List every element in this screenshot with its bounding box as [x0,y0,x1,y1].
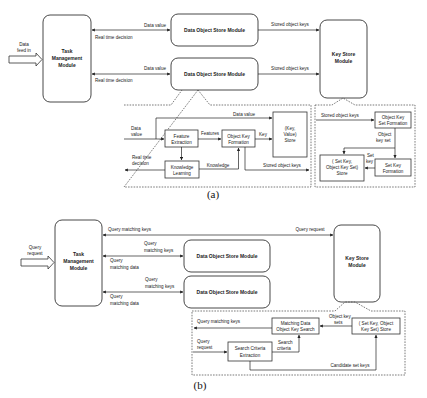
sks-label-3: Store [337,171,348,176]
okf-label-2: Formation [228,140,249,145]
dosm-b1-label: Data Object Store Module [197,253,258,259]
edge-data-value-2: Data value [144,66,166,71]
task-management-b-label-3: Module [70,265,88,271]
caption-a: (a) [207,188,220,201]
edge-real-time-decision-1: Real time decision [95,35,133,40]
knowledge-learning-label-2: Learning [173,171,191,176]
dos-data-value-in-2: value [131,132,142,137]
data-feed-label-1: Data [19,42,29,47]
feature-extraction-label-2: Extraction [171,140,192,145]
ks-query-request-1: Query [197,339,210,344]
edge-query-request-top: Query request [295,227,325,232]
ks-query-matching-keys: Query matching keys [197,319,241,324]
edge-stored-object-keys-2: Stored object keys [271,66,309,71]
dos-real-time-decision-2: decision [132,161,149,166]
kv-store-label-3: Store [285,138,296,143]
task-management-label-2: Management [52,55,83,61]
task-management-b-label-1: Task [73,251,84,257]
dos-stored-object-keys: Stored object keys [263,163,301,168]
task-management-label-3: Module [58,62,76,68]
edge-qmk2-2: matching keys [145,284,175,289]
oksf-label-1: Object Key [382,115,405,120]
mdoks-label-1: Matching Data [281,321,311,326]
caption-b: (b) [194,379,207,392]
dos-data-value-top: Data value [233,112,255,117]
figure-a: Data feed in Task Management Module Data… [9,14,415,201]
dos-real-time-decision-1: Real time [132,155,152,160]
object-key-set-label-2: key set [376,138,391,143]
feature-extraction-label-1: Feature [174,134,190,139]
kv-store-label-1: (Key, [285,126,295,131]
features-label: Features [201,131,220,136]
key-store-a-label-1: Key Store [332,51,356,57]
skf-label-2: Formation [383,169,404,174]
edge-query-matching-keys-top: Query matching keys [108,227,152,232]
task-management-b-label-2: Management [63,258,94,264]
edge-qmk1-2: matching keys [144,248,174,253]
edge-qmd2-1: Query [110,294,123,299]
oksf-label-2: Set Formation [379,121,408,126]
candidate-set-keys-label: Candidate set keys [330,363,370,368]
search-criteria-extraction-box [228,342,272,361]
key-store-b-label-2: Module [348,262,366,268]
okf-label-1: Object Key [227,134,250,139]
figure-b: Query request Task Management Module Dat… [21,220,405,392]
dosm-a1-label: Data Object Store Module [184,27,245,33]
knowledge-learning-label-1: Knowledge [171,165,194,170]
ks-stored-object-keys: Stored object keys [321,113,359,118]
sks-b-label-2: Key Set) Store [361,327,391,332]
edge-stored-object-keys-1: Stored object keys [271,22,309,27]
set-key-label-1: Set [367,153,375,158]
set-key-label-2: key [366,159,374,164]
ks-query-detail-callout [192,302,405,375]
mdoks-label-2: Object Key Search [276,327,315,332]
sks-label-2: Object Key Set) [326,165,359,170]
edge-qmd1-1: Query [110,258,123,263]
object-key-sets-label-1: Object key [329,314,351,319]
dosm-b2-label: Data Object Store Module [197,289,258,295]
task-management-label-1: Task [61,48,72,54]
sks-b-label-1: ( Set Key, Object [359,321,394,326]
key-label: Key [259,132,268,137]
edge-qmk2-1: Query [145,277,158,282]
object-key-set-label-1: Object [378,132,392,137]
dosm-a2-label: Data Object Store Module [184,71,245,77]
key-store-a-label-2: Module [335,58,353,64]
data-feed-label-2: feed in [17,48,31,53]
edge-real-time-decision-2: Real time decision [95,78,133,83]
skf-label-1: Set Key [385,163,402,168]
ks-query-request-2: request [197,345,213,350]
edge-qmd2-2: matching data [110,301,139,306]
query-request-label-1: Query [29,245,42,250]
sce-label-1: Search Criteria [235,346,266,351]
query-request-arrow-icon [21,256,54,269]
query-request-label-2: request [27,251,43,256]
data-feed-arrow-icon [9,53,42,66]
architecture-diagram: Data feed in Task Management Module Data… [0,0,427,398]
search-criteria-label-1: Search [278,340,293,345]
sce-label-2: Extraction [240,353,261,358]
object-key-sets-label-2: sets [334,320,343,325]
edge-qmd1-2: matching data [110,265,139,270]
search-criteria-label-2: criteria [277,346,291,351]
key-store-b-label-1: Key Store [345,255,369,261]
sks-label-1: ( Set Key, [332,159,352,164]
edge-qmk1-1: Query [144,241,157,246]
knowledge-label: Knowledge [207,163,230,168]
edge-data-value-1: Data value [144,23,166,28]
dos-data-value-in-1: Data [131,126,141,131]
kv-store-label-2: Value) [284,132,297,137]
